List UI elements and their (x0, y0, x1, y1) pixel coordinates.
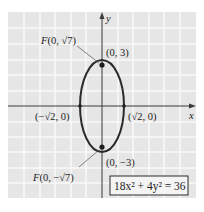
focus-bottom-dot (99, 144, 104, 149)
focus-top-label: F(0, √7) (40, 35, 76, 47)
vertex-left-dot (78, 104, 82, 108)
bottom-vertex-label: (0, −3) (106, 157, 135, 169)
ellipse-graph: y x F(0, √7) (0, 3) (−√2, 0) (√2, 0) (0,… (0, 0, 204, 212)
left-vertex-label: (−√2, 0) (35, 111, 70, 123)
y-axis-label: y (105, 13, 111, 24)
focus-top-dot (99, 62, 104, 67)
vertex-right-dot (122, 104, 126, 108)
x-axis-label: x (188, 110, 194, 121)
top-vertex-label: (0, 3) (106, 47, 129, 59)
right-vertex-label: (√2, 0) (128, 111, 157, 123)
focus-bottom-label: F(0, −√7) (32, 172, 74, 184)
equation-label: 18x² + 4y² = 36 (114, 180, 186, 193)
